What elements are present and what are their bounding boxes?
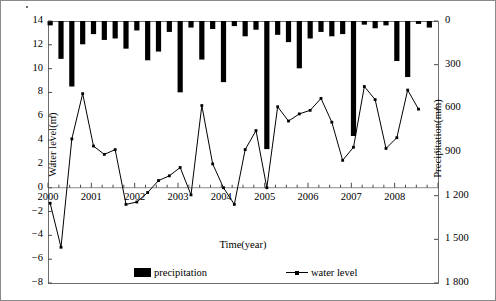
y-right-tick-label: 900: [445, 145, 485, 156]
y-left-tick-label: −4: [17, 228, 43, 239]
y-left-tick-label: 2: [17, 157, 43, 168]
x-axis-title: Time(year): [48, 239, 438, 250]
y-left-tick-label: −2: [17, 205, 43, 216]
bar-swatch-icon: [134, 268, 151, 277]
y-left-tick-label: 4: [17, 133, 43, 144]
y-right-tick-label: 600: [445, 101, 485, 112]
y-left-tick-label: 8: [17, 85, 43, 96]
x-tick-label: 2005: [245, 191, 285, 202]
y-axis-title-right: Precipitation(mm): [432, 74, 443, 204]
y-axis-title-left: Water level(m): [47, 85, 58, 205]
legend-label-water-level: water level: [311, 267, 357, 278]
y-left-tick-label: 14: [17, 14, 43, 25]
x-tick-label: 2008: [375, 191, 415, 202]
y-left-tick-label: 6: [17, 109, 43, 120]
y-right-tick-label: 1 500: [445, 232, 485, 243]
x-tick-label: 2007: [331, 191, 371, 202]
y-left-tick-label: 10: [17, 62, 43, 73]
y-right-tick-label: 0: [445, 14, 485, 25]
legend-label-precipitation: precipitation: [154, 267, 207, 278]
y-left-tick-label: −6: [17, 252, 43, 263]
y-right-tick-label: 1 800: [445, 276, 485, 287]
y-right-tick-label: 300: [445, 58, 485, 69]
y-left-tick-label: −8: [17, 276, 43, 287]
plot-area: Water level(m) Precipitation(mm) Time(ye…: [48, 21, 438, 283]
x-tick-label: 2000: [28, 191, 68, 202]
x-tick-label: 2002: [115, 191, 155, 202]
figure: Water level(m) Precipitation(mm) Time(ye…: [0, 0, 496, 301]
x-tick-label: 2003: [158, 191, 198, 202]
chart-legend: precipitation water level: [48, 267, 438, 283]
legend-item-precipitation: precipitation: [134, 267, 207, 278]
y-left-tick-label: 12: [17, 38, 43, 49]
y-right-tick-label: 1 200: [445, 189, 485, 200]
line-marker-icon: [286, 268, 308, 277]
x-tick-label: 2001: [71, 191, 111, 202]
x-tick-label: 2004: [201, 191, 241, 202]
legend-item-water-level: water level: [286, 267, 357, 278]
x-tick-label: 2006: [288, 191, 328, 202]
